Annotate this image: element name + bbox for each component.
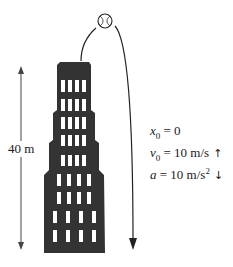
- up-arrow-icon: ↑: [213, 147, 222, 160]
- building: [44, 62, 105, 253]
- initial-velocity-label: v0 = 10 m/s↑: [150, 146, 222, 161]
- acceleration-label: a = 10 m/s2↓: [150, 168, 223, 183]
- trajectory-up: [81, 28, 96, 61]
- trajectory-down: [115, 26, 133, 240]
- height-label: 40 m: [8, 141, 34, 157]
- baseball-icon: [98, 14, 112, 28]
- trajectory-arrowhead: [129, 238, 137, 250]
- height-dimension-arrow: [18, 66, 24, 250]
- initial-position-label: x0 = 0: [150, 124, 181, 138]
- diagram-canvas: [0, 0, 233, 267]
- down-arrow-icon: ↓: [214, 169, 223, 182]
